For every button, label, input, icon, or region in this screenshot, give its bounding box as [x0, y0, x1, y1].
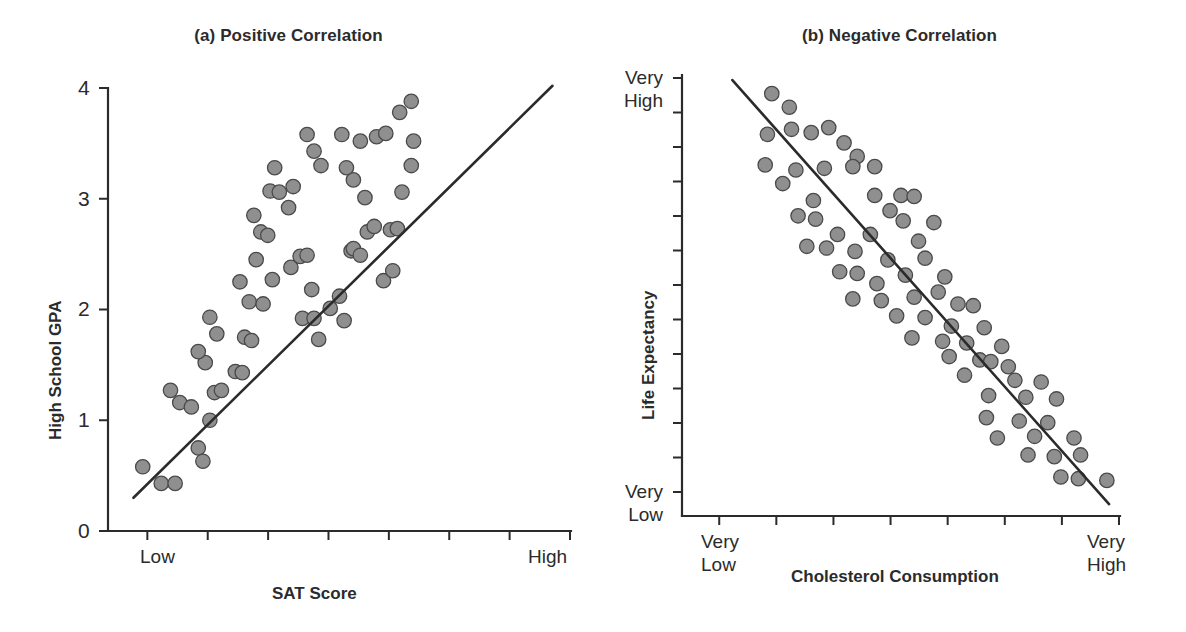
- scatter-point: [244, 333, 258, 347]
- scatter-point: [883, 203, 897, 217]
- scatter-point: [977, 321, 991, 335]
- scatter-point: [392, 105, 406, 119]
- scatter-point: [1100, 473, 1114, 487]
- scatter-point: [191, 441, 205, 455]
- scatter-point: [300, 127, 314, 141]
- scatter-point: [995, 339, 1009, 353]
- scatter-point: [214, 383, 228, 397]
- scatter-point: [911, 234, 925, 248]
- scatter-point: [784, 122, 798, 136]
- y-tick-label-2: 2: [78, 297, 90, 320]
- scatter-point: [918, 310, 932, 324]
- scatter-point: [1012, 414, 1026, 428]
- x-tick-label-high: High: [528, 545, 567, 568]
- scatter-point: [404, 94, 418, 108]
- scatter-point: [379, 126, 393, 140]
- y-tick-label-3: 3: [78, 187, 90, 210]
- scatter-point: [235, 365, 249, 379]
- panel-negative-correlation: (b) Negative Correlation VeryHigh VeryLo…: [593, 0, 1186, 632]
- scatter-point: [957, 368, 971, 382]
- scatter-point: [136, 460, 150, 474]
- scatter-point: [1034, 375, 1048, 389]
- scatter-point: [249, 252, 263, 266]
- x-axis-title: SAT Score: [272, 584, 357, 604]
- scatter-point: [168, 476, 182, 490]
- scatter-point: [1073, 448, 1087, 462]
- scatter-point: [256, 297, 270, 311]
- scatter-point: [830, 227, 844, 241]
- scatter-point: [846, 159, 860, 173]
- scatter-point: [907, 189, 921, 203]
- y-axis-title: Life Expectancy: [639, 291, 659, 420]
- scatter-point: [353, 134, 367, 148]
- scatter-point: [776, 176, 790, 190]
- scatter-point: [931, 285, 945, 299]
- scatter-point: [804, 125, 818, 139]
- y-tick-label-very-low: VeryLow: [615, 480, 663, 526]
- scatter-point: [760, 127, 774, 141]
- scatter-point: [339, 161, 353, 175]
- trend-line: [732, 80, 1109, 504]
- scatter-point: [335, 127, 349, 141]
- scatter-point: [782, 100, 796, 114]
- scatter-point: [817, 161, 831, 175]
- scatter-point: [353, 248, 367, 262]
- scatter-point: [927, 215, 941, 229]
- scatter-point: [314, 158, 328, 172]
- scatter-point: [404, 158, 418, 172]
- scatter-point: [286, 179, 300, 193]
- trend-line: [133, 86, 552, 498]
- scatter-point: [203, 413, 217, 427]
- scatter-point: [765, 86, 779, 100]
- scatter-point: [848, 244, 862, 258]
- scatter-point: [806, 193, 820, 207]
- scatter-points: [136, 94, 421, 490]
- scatter-point: [979, 410, 993, 424]
- y-tick-label-1: 1: [78, 408, 90, 431]
- x-axis-ticks: [719, 516, 1119, 525]
- x-tick-label-very-high: VeryHigh: [1087, 530, 1126, 576]
- scatter-point: [905, 331, 919, 345]
- scatter-point: [210, 327, 224, 341]
- scatter-point: [307, 144, 321, 158]
- scatter-point: [163, 383, 177, 397]
- scatter-point: [758, 158, 772, 172]
- scatter-point: [1019, 390, 1033, 404]
- scatter-point: [868, 188, 882, 202]
- scatter-point: [281, 200, 295, 214]
- scatter-point: [261, 228, 275, 242]
- scatter-point: [1027, 429, 1041, 443]
- scatter-point: [868, 159, 882, 173]
- scatter-point: [406, 134, 420, 148]
- scatter-point: [846, 292, 860, 306]
- scatter-point: [305, 282, 319, 296]
- x-axis-title: Cholesterol Consumption: [791, 567, 999, 587]
- scatter-point: [935, 334, 949, 348]
- scatter-point: [267, 161, 281, 175]
- scatter-point: [894, 188, 908, 202]
- scatter-point: [300, 248, 314, 262]
- scatter-point: [942, 349, 956, 363]
- scatter-point: [1047, 449, 1061, 463]
- scatter-point: [358, 190, 372, 204]
- scatter-point: [184, 400, 198, 414]
- scatter-point: [874, 293, 888, 307]
- scatter-point: [191, 344, 205, 358]
- scatter-point: [272, 185, 286, 199]
- scatter-point: [870, 276, 884, 290]
- scatter-point: [196, 454, 210, 468]
- scatter-point: [837, 136, 851, 150]
- scatter-point: [1021, 448, 1035, 462]
- scatter-point: [1008, 373, 1022, 387]
- x-axis-ticks: [147, 531, 570, 540]
- scatter-point: [1049, 392, 1063, 406]
- y-axis-ticks: [99, 88, 108, 531]
- y-tick-label-0: 0: [78, 519, 90, 542]
- scatter-point: [951, 297, 965, 311]
- scatter-point: [1001, 360, 1015, 374]
- y-axis-title: High School GPA: [46, 301, 66, 440]
- scatter-point: [367, 219, 381, 233]
- scatter-point: [850, 266, 864, 280]
- scatter-points: [758, 86, 1114, 487]
- panel-positive-correlation: (a) Positive Correlation 4 3 2 1 0 Low H…: [0, 0, 593, 632]
